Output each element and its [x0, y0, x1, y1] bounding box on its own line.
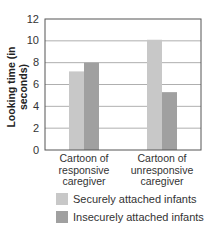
y-tick-label: 6: [33, 78, 39, 90]
legend-label: Securely attached infants: [73, 193, 197, 205]
legend-label: Insecurely attached infants: [73, 211, 204, 223]
legend-item-insecure: Insecurely attached infants: [56, 208, 204, 226]
legend-swatch: [56, 211, 68, 223]
y-tick-label: 4: [33, 100, 39, 112]
bar: [147, 40, 162, 150]
y-tick-label: 0: [33, 144, 39, 156]
x-category-unresponsive: Cartoon of unresponsive caregiver: [127, 153, 197, 188]
y-tick-label: 2: [33, 122, 39, 134]
legend-item-secure: Securely attached infants: [56, 190, 204, 208]
legend-swatch: [56, 193, 68, 205]
y-axis-label: Looking time (in seconds): [5, 32, 29, 142]
category-line: caregiver: [49, 176, 119, 188]
x-category-responsive: Cartoon of responsive caregiver: [49, 153, 119, 188]
y-tick-label: 8: [33, 56, 39, 68]
category-line: Cartoon of: [127, 153, 197, 165]
bar: [84, 63, 99, 150]
y-tick-label: 12: [27, 13, 39, 25]
category-line: Cartoon of: [49, 153, 119, 165]
bar: [69, 71, 84, 150]
category-line: caregiver: [127, 176, 197, 188]
legend: Securely attached infants Insecurely att…: [56, 190, 204, 226]
bar: [162, 92, 177, 150]
